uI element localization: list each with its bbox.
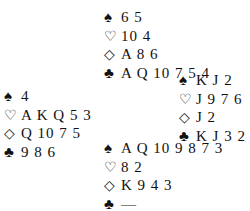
heart-icon: ♡ <box>104 159 121 178</box>
west-spades: ♠4 <box>4 87 92 106</box>
west-clubs: ♣9 8 6 <box>4 143 92 162</box>
south-diamonds: ◇K 9 4 3 <box>104 176 223 195</box>
spade-icon: ♠ <box>104 8 121 27</box>
club-icon: ♣ <box>104 195 121 211</box>
west-hand: ♠4 ♡A K Q 5 3 ◇Q 10 7 5 ♣9 8 6 <box>4 87 92 161</box>
west-diamonds: ◇Q 10 7 5 <box>4 124 92 143</box>
north-diamonds: ◇A 8 6 <box>104 45 210 64</box>
diamond-icon: ◇ <box>4 125 21 144</box>
south-clubs: ♣— <box>104 195 223 211</box>
diamond-icon: ◇ <box>104 46 121 65</box>
east-hearts: ♡J 9 7 6 <box>179 90 246 109</box>
spade-icon: ♠ <box>179 71 196 90</box>
east-diamonds: ◇J 2 <box>179 108 246 127</box>
spade-icon: ♠ <box>4 87 21 106</box>
north-spades: ♠6 5 <box>104 8 210 27</box>
heart-icon: ♡ <box>104 28 121 47</box>
club-icon: ♣ <box>4 143 21 162</box>
club-icon: ♣ <box>104 64 121 83</box>
south-hearts: ♡8 2 <box>104 158 223 177</box>
south-spades: ♠A Q 10 9 8 7 3 <box>104 139 223 158</box>
east-hand: ♠K J 2 ♡J 9 7 6 ◇J 2 ♣K J 3 2 <box>179 71 246 145</box>
diamond-icon: ◇ <box>179 109 196 128</box>
diamond-icon: ◇ <box>104 177 121 196</box>
west-hearts: ♡A K Q 5 3 <box>4 106 92 125</box>
east-spades: ♠K J 2 <box>179 71 246 90</box>
heart-icon: ♡ <box>179 91 196 110</box>
heart-icon: ♡ <box>4 107 21 126</box>
north-hearts: ♡10 4 <box>104 27 210 46</box>
south-hand: ♠A Q 10 9 8 7 3 ♡8 2 ◇K 9 4 3 ♣— <box>104 139 223 210</box>
spade-icon: ♠ <box>104 139 121 158</box>
